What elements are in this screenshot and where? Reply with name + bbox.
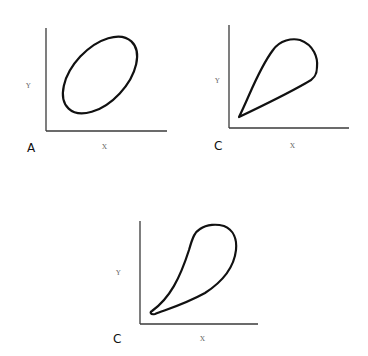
panel-c-x-label: X xyxy=(200,335,205,343)
panel-b-x-label: X xyxy=(290,142,295,150)
panel-c-y-label: Y xyxy=(115,269,121,277)
panel-b-y-label: Y xyxy=(214,77,220,85)
panel-a-y-label: Y xyxy=(25,82,31,90)
figure-canvas: Y X A Y X C Y X C xyxy=(0,0,368,356)
panel-b: Y X C xyxy=(214,25,349,153)
panel-c-teardrop-curve xyxy=(151,225,236,314)
panel-b-letter: C xyxy=(214,139,222,153)
panel-b-teardrop-curve xyxy=(239,39,317,117)
panel-a: Y X A xyxy=(25,23,167,155)
panel-a-x-label: X xyxy=(102,143,107,151)
panel-c-letter: C xyxy=(113,332,121,346)
panel-c: Y X C xyxy=(113,221,258,346)
panel-a-letter: A xyxy=(27,141,36,155)
panel-a-ellipse-curve xyxy=(49,23,151,127)
